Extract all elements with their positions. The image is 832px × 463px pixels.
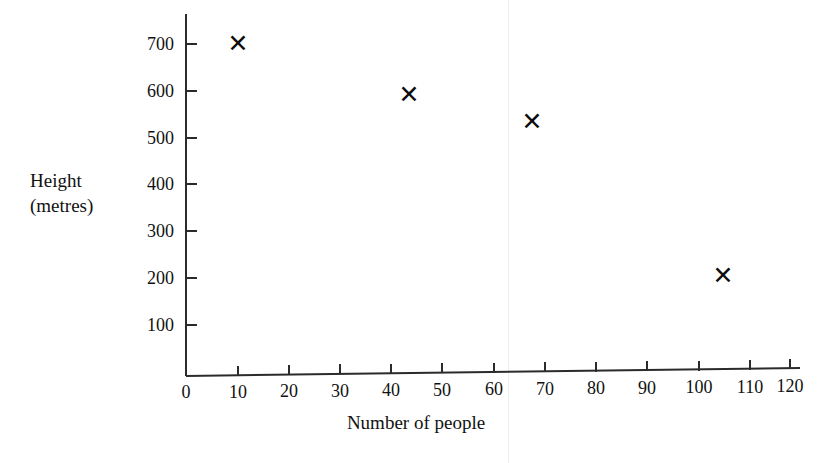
x-tick-label: 100: [676, 378, 722, 396]
data-point-marker: ✕: [517, 109, 547, 135]
x-tick-label: 20: [266, 382, 312, 400]
y-axis-title-line2: (metres): [30, 193, 93, 218]
data-point-marker: ✕: [708, 263, 738, 289]
data-point-marker: ✕: [394, 82, 424, 108]
x-tick-label: 10: [215, 383, 261, 401]
data-point-marker: ✕: [223, 31, 253, 57]
y-tick-label: 700: [118, 35, 174, 53]
x-tick-label: 30: [317, 382, 363, 400]
y-axis-title-line1: Height: [30, 170, 82, 191]
y-axis-ticks: [186, 44, 197, 325]
y-tick-label: 500: [118, 129, 174, 147]
y-tick-label: 600: [118, 82, 174, 100]
y-tick-label: 400: [118, 175, 174, 193]
y-tick-label: 300: [118, 222, 174, 240]
x-tick-label: 40: [368, 381, 414, 399]
x-tick-label: 0: [163, 383, 209, 401]
x-tick-label: 60: [471, 380, 517, 398]
y-tick-label: 100: [118, 316, 174, 334]
x-tick-label: 80: [573, 379, 619, 397]
scatter-chart: Height (metres) Number of people 700 600…: [0, 0, 832, 463]
x-axis-ticks: [186, 359, 790, 376]
y-tick-label: 200: [118, 269, 174, 287]
y-axis-title: Height (metres): [30, 168, 93, 218]
x-axis-title: Number of people: [0, 410, 832, 435]
x-tick-label: 70: [522, 380, 568, 398]
x-tick-label: 50: [419, 381, 465, 399]
x-tick-label: 90: [624, 379, 670, 397]
x-tick-label: 120: [767, 377, 813, 395]
